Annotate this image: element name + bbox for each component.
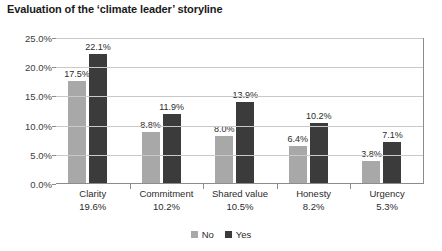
- gridline: [56, 155, 423, 156]
- bar-series-group: 17.5%22.1%8.8%11.9%8.0%13.9%6.4%10.2%3.8…: [56, 38, 423, 183]
- bar-value-label: 7.1%: [382, 130, 403, 140]
- bar-value-label: 10.2%: [306, 111, 332, 121]
- bar-value-label: 6.4%: [288, 134, 309, 144]
- bar-group: 3.8%7.1%: [350, 38, 424, 183]
- gridline: [56, 126, 423, 127]
- bar-no: [362, 161, 380, 183]
- bar-value-label: 17.5%: [64, 69, 90, 79]
- legend-label: No: [202, 229, 214, 240]
- y-axis-tick-label: 20.0%: [25, 62, 52, 73]
- legend-item-no[interactable]: No: [191, 229, 214, 240]
- legend-swatch-icon: [225, 231, 232, 238]
- legend-label: Yes: [236, 229, 252, 240]
- bar-value-label: 11.9%: [159, 102, 184, 112]
- bar-yes: [310, 123, 328, 183]
- legend-swatch-icon: [191, 231, 198, 238]
- category-value: 10.5%: [212, 201, 268, 214]
- bar-yes: [163, 114, 181, 183]
- category-value: 5.3%: [370, 201, 405, 214]
- y-axis-tick-label: 15.0%: [25, 91, 52, 102]
- x-axis-category-label: Honesty8.2%: [296, 188, 331, 213]
- bar-group: 17.5%22.1%: [56, 38, 130, 183]
- chart-container: Evaluation of the ‘climate leader’ story…: [0, 0, 442, 251]
- bar-value-label: 13.9%: [232, 90, 258, 100]
- category-value: 10.2%: [139, 201, 193, 214]
- bar-no: [289, 146, 307, 183]
- plot-area: 17.5%22.1%8.8%11.9%8.0%13.9%6.4%10.2%3.8…: [56, 38, 424, 184]
- category-value: 19.6%: [79, 201, 106, 214]
- category-name: Clarity: [79, 188, 106, 201]
- category-name: Shared value: [212, 188, 268, 201]
- bar-yes: [89, 54, 107, 183]
- y-axis-tick-label: 10.0%: [25, 120, 52, 131]
- y-axis-tick-label: 25.0%: [25, 33, 52, 44]
- bar-yes: [383, 142, 401, 183]
- bar-group: 8.0%13.9%: [203, 38, 277, 183]
- legend-item-yes[interactable]: Yes: [225, 229, 252, 240]
- category-value: 8.2%: [296, 201, 331, 214]
- bar-no: [215, 136, 233, 183]
- gridline: [56, 67, 423, 68]
- x-axis-category-label: Shared value10.5%: [212, 188, 268, 213]
- category-name: Commitment: [139, 188, 193, 201]
- category-name: Honesty: [296, 188, 331, 201]
- bar-yes: [236, 102, 254, 183]
- chart-legend: NoYes: [0, 229, 442, 240]
- gridline: [56, 96, 423, 97]
- y-axis-tick-label: 5.0%: [30, 149, 52, 160]
- y-axis: 0.0%5.0%10.0%15.0%20.0%25.0%: [0, 0, 52, 251]
- x-axis-categories: Clarity19.6%Commitment10.2%Shared value1…: [56, 188, 424, 220]
- bar-value-label: 22.1%: [85, 42, 111, 52]
- category-name: Urgency: [370, 188, 405, 201]
- x-axis-category-label: Urgency5.3%: [370, 188, 405, 213]
- x-axis-category-label: Commitment10.2%: [139, 188, 193, 213]
- bar-no: [142, 132, 160, 183]
- bar-group: 6.4%10.2%: [277, 38, 351, 183]
- bar-group: 8.8%11.9%: [130, 38, 204, 183]
- y-axis-tick-label: 0.0%: [30, 179, 52, 190]
- gridline: [56, 38, 423, 39]
- x-axis-category-label: Clarity19.6%: [79, 188, 106, 213]
- y-axis-tick: [52, 184, 56, 185]
